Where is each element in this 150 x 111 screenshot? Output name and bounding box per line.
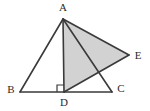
segment-ab bbox=[20, 19, 63, 92]
vertex-label-a: A bbox=[59, 1, 67, 13]
geometry-figure: A B C D E bbox=[0, 0, 150, 111]
vertex-label-d: D bbox=[60, 96, 68, 108]
vertex-label-b: B bbox=[7, 83, 14, 95]
vertex-label-e: E bbox=[135, 49, 142, 61]
geometry-canvas: A B C D E bbox=[0, 0, 150, 111]
segment-ad bbox=[63, 19, 64, 92]
right-angle-marker-at-d bbox=[57, 85, 64, 92]
vertex-label-c: C bbox=[117, 82, 124, 94]
